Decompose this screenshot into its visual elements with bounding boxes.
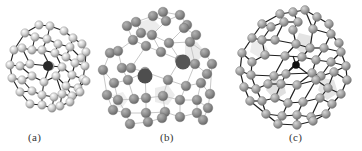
atom: [141, 108, 151, 118]
panel-c-label: (c): [289, 131, 302, 143]
atom: [316, 94, 325, 103]
atom: [196, 78, 206, 88]
atom: [258, 97, 267, 106]
atom: [320, 44, 329, 53]
atom: [309, 117, 318, 126]
atom: [289, 26, 298, 35]
atom: [335, 39, 344, 48]
atom: [298, 53, 307, 62]
atom: [274, 120, 283, 129]
atom: [270, 72, 279, 81]
atom: [330, 68, 339, 77]
atom: [280, 18, 289, 27]
atom: [306, 44, 315, 53]
atom: [284, 99, 293, 108]
atom: [271, 36, 280, 45]
atom: [122, 21, 132, 31]
atom: [56, 102, 64, 110]
atom: [38, 46, 46, 54]
atom: [66, 43, 74, 51]
atom: [54, 40, 62, 48]
atom: [175, 112, 185, 122]
atom: [262, 110, 271, 119]
panel-a-label: (a): [28, 131, 41, 143]
atom: [157, 113, 167, 123]
atom: [48, 104, 56, 112]
atom: [26, 100, 34, 108]
panel-c-structure: [236, 6, 352, 130]
atom: [43, 35, 51, 43]
atom: [60, 27, 68, 35]
atom: [264, 80, 273, 89]
atom: [121, 108, 131, 118]
atom: [58, 90, 66, 98]
atom: [163, 75, 173, 85]
atom: [82, 77, 90, 85]
atom: [62, 53, 70, 61]
atom: [109, 78, 119, 88]
atom: [247, 71, 256, 80]
atom: [252, 85, 261, 94]
atom: [38, 101, 46, 109]
atom: [200, 48, 210, 58]
atom: [156, 47, 166, 57]
atom: [293, 121, 302, 130]
dopant-atom: [176, 55, 191, 70]
atom: [261, 51, 270, 60]
atom: [129, 94, 139, 104]
atom: [10, 46, 18, 54]
atom: [69, 34, 77, 42]
atom: [248, 58, 257, 67]
atom: [108, 105, 118, 115]
atom: [258, 20, 267, 29]
atom: [26, 60, 34, 68]
atom: [68, 71, 76, 79]
atom: [192, 95, 202, 105]
atom: [207, 59, 217, 69]
atom: [271, 94, 280, 103]
atom: [322, 110, 331, 119]
atom: [292, 40, 301, 49]
atom: [40, 78, 48, 86]
atom: [267, 23, 276, 32]
atom: [16, 62, 24, 70]
atom: [125, 119, 135, 129]
atom: [342, 62, 351, 71]
atom: [203, 103, 213, 113]
atom: [71, 59, 79, 67]
molecular-structures-figure: (a) (b) (c): [0, 0, 362, 151]
atom: [113, 95, 123, 105]
dopant-atom: [43, 61, 53, 71]
atom: [175, 10, 185, 20]
atom: [301, 6, 310, 15]
atom: [28, 72, 36, 80]
atom: [328, 100, 337, 109]
atom: [248, 34, 257, 43]
atom: [158, 7, 168, 17]
atom: [141, 93, 151, 103]
atom: [161, 16, 171, 26]
atom: [113, 46, 123, 56]
atom: [289, 8, 298, 17]
atom: [164, 38, 174, 48]
atom: [98, 65, 108, 75]
atom: [277, 80, 286, 89]
atom: [78, 40, 86, 48]
atom: [181, 81, 191, 91]
panel-b-structure: [98, 7, 217, 129]
atom: [240, 83, 249, 92]
atom: [236, 67, 245, 76]
atom: [143, 117, 153, 127]
atom: [51, 49, 59, 57]
dopant-atom: [138, 69, 153, 84]
atom: [205, 89, 215, 99]
atom: [16, 88, 24, 96]
atom: [35, 21, 43, 29]
atom: [179, 23, 189, 33]
atom: [282, 70, 291, 79]
atom: [52, 72, 60, 80]
atom: [28, 87, 36, 95]
atom: [327, 30, 336, 39]
atom: [6, 61, 14, 69]
atom: [50, 93, 58, 101]
